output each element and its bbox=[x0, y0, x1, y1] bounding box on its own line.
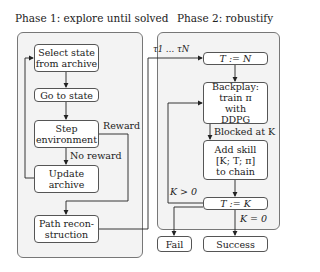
reward-label: Reward bbox=[103, 120, 140, 131]
success-box: Success bbox=[203, 236, 268, 252]
t-assign-k-box: T := K bbox=[203, 197, 268, 210]
k-zero-label: K = 0 bbox=[240, 213, 267, 224]
no-reward-label: No reward bbox=[70, 150, 122, 161]
k-positive-label: K > 0 bbox=[170, 186, 197, 197]
trajectories-label: τ1 … τN bbox=[153, 44, 189, 54]
t-assign-n-box: T := N bbox=[203, 52, 268, 65]
path-reconstruction-box: Path recon- struction bbox=[34, 215, 99, 243]
backplay-box: Backplay: train π with DDPG bbox=[203, 82, 268, 124]
select-state-box: Select state from archive bbox=[34, 44, 99, 72]
step-environment-box: Step environment bbox=[34, 120, 99, 148]
update-archive-box: Update archive bbox=[34, 165, 99, 193]
go-to-state-box: Go to state bbox=[34, 88, 99, 102]
add-skill-box: Add skill [K; T; π] to chain bbox=[203, 140, 268, 180]
blocked-label: Blocked at K bbox=[214, 126, 275, 137]
fail-box: Fail bbox=[157, 236, 192, 252]
